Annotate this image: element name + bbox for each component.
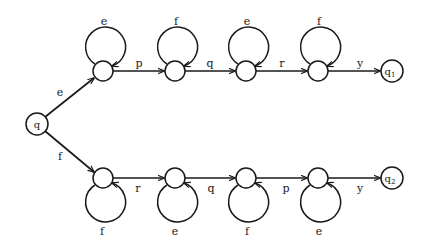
final-node-q2: q2 <box>381 167 403 189</box>
top-transition-3: r <box>256 57 307 71</box>
top-entry-edge: e <box>45 78 94 117</box>
final-node-q1: q1 <box>381 60 403 82</box>
bottom-transition-3: p <box>256 178 307 195</box>
final-node-q2-subscript: 2 <box>391 178 395 186</box>
bottom-transition-label-1: r <box>135 182 141 195</box>
top-transition-label-3: r <box>279 57 285 70</box>
top-loop-label-4: f <box>317 15 322 28</box>
bottom-exit-label: y <box>356 182 364 195</box>
bottom-transition-1: r <box>113 178 164 195</box>
start-node-label: q <box>34 119 41 130</box>
top-exit-label: y <box>356 57 364 70</box>
bottom-loop-label-4: e <box>316 225 323 238</box>
bottom-loop-label-1: f <box>100 225 105 238</box>
automaton-diagram: q e f e f e f p q r <box>0 0 425 247</box>
top-loop-label-3: e <box>244 15 251 28</box>
bottom-transition-label-3: p <box>282 182 289 195</box>
top-loop-label-1: e <box>101 15 108 28</box>
bottom-transition-label-2: q <box>207 182 214 195</box>
bottom-exit-edge: y <box>328 178 380 195</box>
top-transition-label-2: q <box>206 57 213 70</box>
top-entry-label: e <box>57 86 64 99</box>
bottom-entry-label: f <box>58 150 63 163</box>
bottom-transition-2: q <box>185 178 235 195</box>
top-transition-2: q <box>185 57 235 71</box>
top-transition-label-1: p <box>135 57 142 70</box>
bottom-loop-label-3: f <box>245 225 250 238</box>
top-loop-label-2: f <box>174 15 179 28</box>
top-transition-1: p <box>113 57 164 71</box>
final-node-q1-subscript: 1 <box>391 71 395 79</box>
bottom-loop-label-2: e <box>172 225 179 238</box>
bottom-entry-edge: f <box>45 131 94 172</box>
